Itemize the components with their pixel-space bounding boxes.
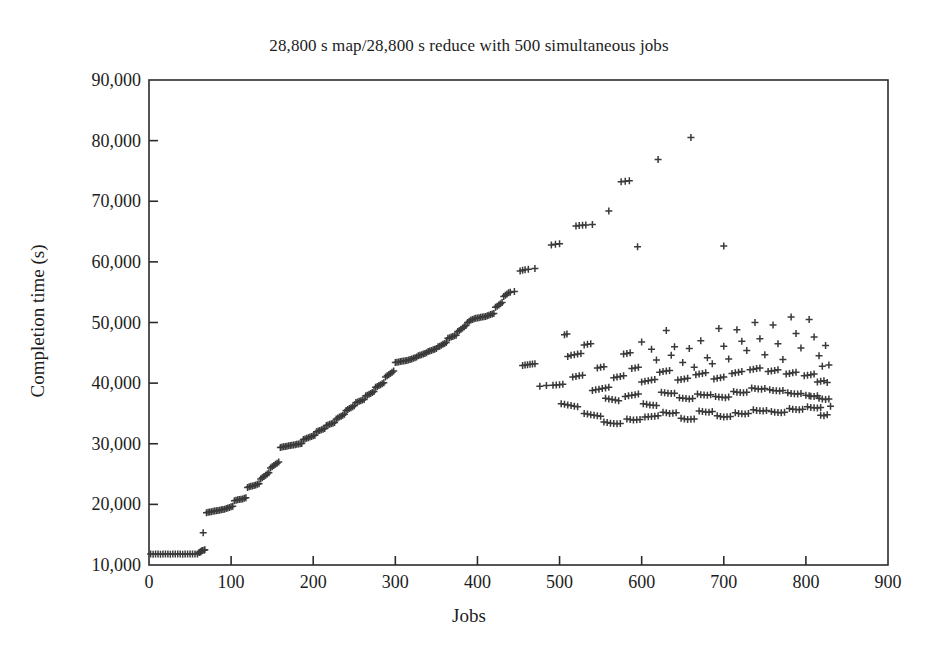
data-point-markers (147, 134, 834, 558)
y-axis-label: Completion time (s) (27, 181, 49, 461)
x-tick-label: 600 (628, 572, 655, 593)
chart-figure: 28,800 s map/28,800 s reduce with 500 si… (0, 0, 938, 660)
x-tick-label: 500 (546, 572, 573, 593)
y-tick-label: 80,000 (92, 130, 142, 151)
y-tick-label: 60,000 (92, 251, 142, 272)
x-tick-label: 100 (218, 572, 245, 593)
x-tick-label: 400 (464, 572, 491, 593)
y-tick-label: 30,000 (92, 433, 142, 454)
x-tick-label: 200 (300, 572, 327, 593)
y-tick-label: 50,000 (92, 312, 142, 333)
y-tick-label: 20,000 (92, 494, 142, 515)
axis-ticks (149, 141, 806, 565)
y-tick-label: 90,000 (92, 70, 142, 91)
chart-title: 28,800 s map/28,800 s reduce with 500 si… (0, 36, 938, 56)
y-tick-label: 40,000 (92, 373, 142, 394)
y-tick-label: 70,000 (92, 191, 142, 212)
y-tick-label: 10,000 (92, 555, 142, 576)
x-tick-label: 700 (710, 572, 737, 593)
x-axis-label: Jobs (0, 605, 938, 627)
x-tick-label: 300 (382, 572, 409, 593)
x-tick-label: 900 (875, 572, 902, 593)
axis-frame (149, 80, 888, 565)
x-tick-label: 800 (792, 572, 819, 593)
x-tick-label: 0 (145, 572, 154, 593)
series-0 (147, 134, 834, 558)
